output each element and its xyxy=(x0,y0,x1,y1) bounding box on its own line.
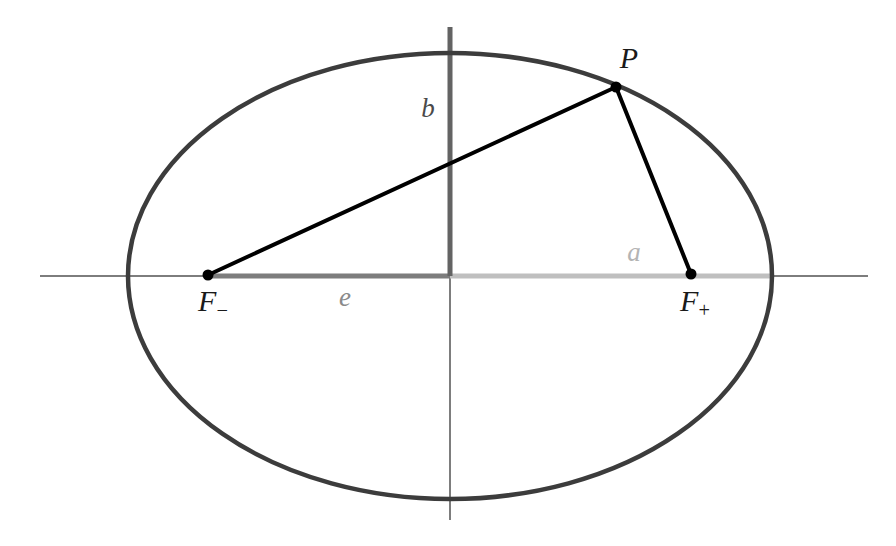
focal-radius-to-f-minus xyxy=(208,87,616,275)
point-marker-f-minus xyxy=(203,270,214,281)
label-focus-minus-base: F xyxy=(198,284,216,317)
label-focal-offset-e: e xyxy=(339,284,351,311)
label-point-p: P xyxy=(620,43,638,73)
label-semi-major-a: a xyxy=(627,239,641,266)
point-marker-f-plus xyxy=(686,269,697,280)
label-focus-plus: F+ xyxy=(680,286,710,320)
label-semi-minor-b: b xyxy=(421,95,435,122)
label-focus-plus-base: F xyxy=(680,284,698,317)
label-focus-minus: F− xyxy=(198,286,228,320)
ellipse-diagram-canvas xyxy=(0,0,896,546)
ellipse-figure: P F− F+ b e a xyxy=(0,0,896,546)
point-marker-p xyxy=(611,82,622,93)
label-focus-plus-subscript: + xyxy=(698,299,710,321)
label-focus-minus-subscript: − xyxy=(216,299,228,321)
